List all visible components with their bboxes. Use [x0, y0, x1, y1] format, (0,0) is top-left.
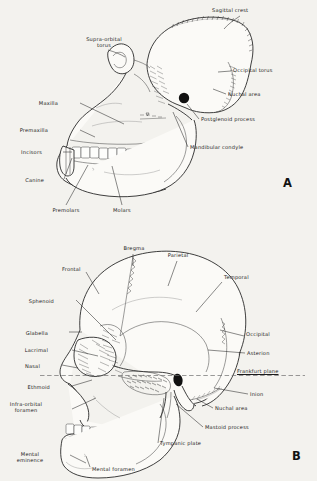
label-mandibular-condyle: Mandibular condyle [190, 144, 243, 150]
label-incisors: Incisors [2, 149, 42, 155]
label-glabella: Glabella [2, 330, 48, 336]
label-nuchal-area-b: Nuchal area [215, 405, 248, 411]
anatomy-plate: Sagittal crest Supra-orbital torus Occip… [0, 0, 317, 481]
label-supra-orbital-torus: Supra-orbital torus [56, 36, 152, 48]
label-molars: Molars [96, 207, 148, 213]
label-ethmoid: Ethmoid [2, 384, 50, 390]
label-sagittal-crest: Sagittal crest [212, 7, 248, 13]
label-occipital-torus: Occipital torus [233, 67, 273, 73]
label-mental-eminence: Mental eminence [8, 451, 52, 463]
label-nuchal-area: Nuchal area [228, 91, 261, 97]
label-temporal: Temporal [224, 274, 249, 280]
label-parietal: Parietal [152, 252, 204, 258]
label-inion: Inion [250, 391, 263, 397]
postglenoid-process-marker [179, 93, 189, 103]
label-frankfurt-plane: Frankfurt plane [237, 368, 279, 374]
figure-b-drawing [60, 251, 246, 478]
label-premaxilla: Premaxilla [2, 127, 48, 133]
label-lacrimal: Lacrimal [2, 347, 48, 353]
label-sphenoid: Sphenoid [4, 298, 54, 304]
panel-letter-a: A [283, 176, 292, 190]
label-nasal: Nasal [2, 363, 40, 369]
label-mastoid-process: Mastoid process [205, 424, 249, 430]
label-bregma: Bregma [110, 245, 158, 251]
panel-letter-b: B [292, 449, 301, 463]
label-mental-foramen: Mental foramen [92, 466, 135, 472]
label-infra-orbital-foramen: Infra-orbital foramen [0, 401, 52, 413]
label-maxilla: Maxilla [2, 100, 58, 106]
label-asterion: Asterion [247, 350, 270, 356]
label-occipital: Occipital [246, 331, 270, 337]
label-canine: Canine [2, 177, 44, 183]
label-premolars: Premolars [36, 207, 96, 213]
label-frontal: Frontal [62, 266, 81, 272]
label-tympanic-plate: Tympanic plate [160, 440, 201, 446]
label-postglenoid-process: Postglenoid process [201, 116, 255, 122]
